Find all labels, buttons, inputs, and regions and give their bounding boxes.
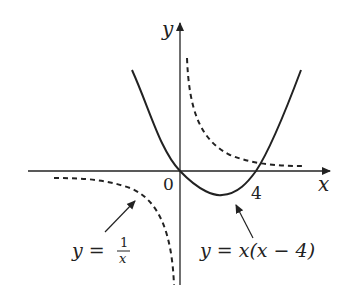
y-axis-label: y <box>161 17 174 41</box>
hyperbola-label-denominator: x <box>119 251 127 266</box>
parabola-pointer-arrow <box>236 205 253 238</box>
x-axis-label: x <box>318 172 329 196</box>
hyperbola-pointer-arrow <box>105 201 135 232</box>
parabola-curve <box>132 70 301 195</box>
tick-label-4: 4 <box>251 183 262 203</box>
hyperbola-left-branch <box>54 178 174 285</box>
hyperbola-right-branch <box>187 58 305 166</box>
hyperbola-label-lhs: y = <box>71 239 105 261</box>
graph-diagram: y x 0 4 y = 1 x y = x(x − 4) <box>0 0 341 290</box>
hyperbola-label-numerator: 1 <box>120 235 128 250</box>
parabola-label: y = x(x − 4) <box>199 239 315 261</box>
origin-label: 0 <box>163 174 174 194</box>
